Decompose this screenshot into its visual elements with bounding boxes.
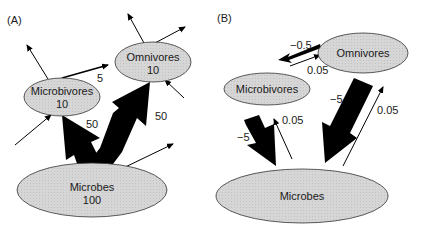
node-name: Microbes [280, 190, 325, 202]
omnivores-input-arrow [165, 80, 184, 98]
omnivores-loss-arrow-2 [155, 27, 185, 43]
panel-b: (B) −0.5 0.05 −5 0.05 −5 0.05 Microbivor… [216, 12, 408, 223]
microbivores-loss-arrow [27, 45, 48, 79]
flow-label-50-a: 50 [86, 118, 98, 130]
flow-label-50-b: 50 [155, 110, 167, 122]
omnivores-loss-arrow-1 [128, 14, 144, 43]
panel-b-label: (B) [217, 12, 232, 24]
microbes-to-omnivores-big-arrow [92, 82, 150, 174]
effect-label-0-05-left: 0.05 [282, 114, 303, 126]
node-name: Microbes [70, 181, 115, 193]
node-microbes-b: Microbes [216, 169, 388, 223]
node-name: Omnivores [126, 51, 180, 63]
flow-label-5: 5 [97, 72, 103, 84]
node-value: 10 [56, 98, 68, 110]
node-omnivores-b: Omnivores [318, 33, 408, 73]
node-microbivores-a: Microbivores 10 [24, 78, 100, 116]
effect-label-0-05-right: 0.05 [377, 104, 398, 116]
node-name: Microbivores [31, 85, 94, 97]
node-microbes-a: Microbes 100 [17, 163, 167, 217]
node-value: 10 [147, 64, 159, 76]
effect-label-neg5-right: −5 [330, 93, 343, 105]
node-microbivores-b: Microbivores [224, 73, 310, 105]
node-value: 100 [83, 194, 101, 206]
food-web-figure: (A) 5 50 50 Microbivores 10 Omnivores 10 [0, 0, 422, 232]
node-omnivores-a: Omnivores 10 [115, 42, 191, 82]
effect-label-neg0-5: −0.5 [290, 39, 312, 51]
omnivores-on-microbes-arrow [322, 78, 373, 163]
node-name: Microbivores [236, 83, 299, 95]
node-name: Omnivores [336, 47, 390, 59]
effect-label-0-05-top: 0.05 [307, 64, 328, 76]
panel-a-label: (A) [7, 14, 22, 26]
effect-label-neg5-left: −5 [237, 131, 250, 143]
microbivores-input-arrow [15, 115, 51, 145]
panel-a: (A) 5 50 50 Microbivores 10 Omnivores 10 [7, 14, 191, 217]
